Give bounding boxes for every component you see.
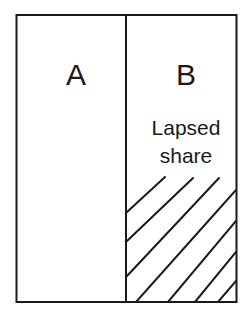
section-b-label: B (166, 60, 206, 90)
lapsed-share-label-line2: share (136, 141, 236, 170)
hatch-line (136, 190, 236, 302)
hatch-line (168, 221, 236, 302)
hatch-line (195, 252, 236, 302)
hatch-line (127, 178, 193, 241)
lapsed-share-hatching (127, 177, 236, 302)
hatch-line (218, 281, 236, 302)
lapsed-share-label-line1: Lapsed (136, 113, 236, 142)
hatch-line (127, 177, 165, 212)
section-a-label: A (56, 60, 96, 90)
